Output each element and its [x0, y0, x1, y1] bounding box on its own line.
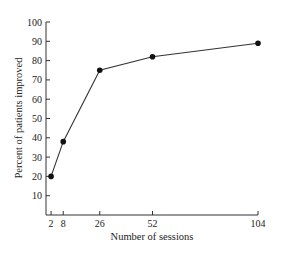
- y-tick-label: 90: [32, 36, 42, 47]
- data-point-marker: [60, 139, 66, 145]
- x-axis: 282652104: [46, 211, 266, 229]
- x-tick-label: 104: [251, 218, 266, 229]
- y-tick-label: 30: [32, 152, 42, 163]
- line-chart: 102030405060708090100 282652104 Number o…: [0, 0, 285, 253]
- y-tick-label: 100: [27, 17, 42, 28]
- y-tick-label: 10: [32, 190, 42, 201]
- data-series: [48, 40, 261, 179]
- y-tick-label: 40: [32, 132, 42, 143]
- y-tick-label: 80: [32, 55, 42, 66]
- y-axis: 102030405060708090100: [27, 17, 50, 216]
- x-tick-label: 26: [95, 218, 105, 229]
- y-tick-label: 20: [32, 171, 42, 182]
- series-line: [51, 43, 258, 176]
- y-tick-label: 60: [32, 94, 42, 105]
- x-tick-label: 2: [49, 218, 54, 229]
- data-point-marker: [255, 40, 261, 46]
- data-point-marker: [48, 174, 54, 180]
- y-tick-label: 50: [32, 113, 42, 124]
- y-tick-label: 70: [32, 74, 42, 85]
- x-tick-label: 52: [148, 218, 158, 229]
- y-axis-title: Percent of patients improved: [13, 57, 24, 179]
- x-tick-label: 8: [61, 218, 66, 229]
- x-axis-title: Number of sessions: [111, 231, 194, 242]
- data-point-marker: [150, 54, 156, 60]
- data-point-marker: [97, 67, 103, 73]
